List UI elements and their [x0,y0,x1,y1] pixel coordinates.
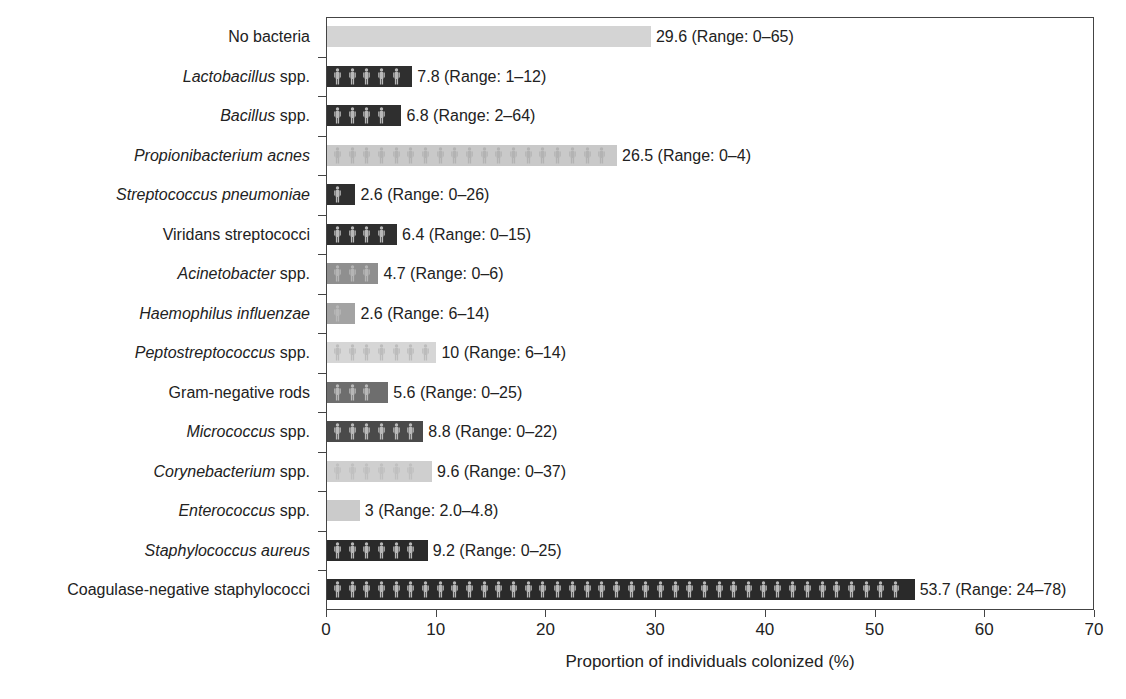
value-label: 6.8 (Range: 2–64) [406,96,535,136]
person-icon [584,147,591,164]
y-tick [318,96,326,97]
person-icon [495,147,502,164]
bar-row: Acinetobacter spp.4.7 (Range: 0–6) [0,254,1126,294]
bar-row: Gram-negative rods5.6 (Range: 0–25) [0,373,1126,413]
person-icon [422,344,429,361]
person-icon [334,542,341,559]
category-label: Micrococcus spp. [0,412,310,452]
value-label: 6.4 (Range: 0–15) [402,215,531,255]
bar-row: Streptococcus pneumoniae2.6 (Range: 0–26… [0,175,1126,215]
person-icon [892,581,899,598]
category-label: Lactobacillus spp. [0,57,310,97]
y-tick [318,570,326,571]
x-tick-label: 50 [855,620,895,640]
y-tick [318,175,326,176]
person-icon [378,226,385,243]
x-tick [984,610,985,617]
person-icon [863,581,870,598]
value-label: 10 (Range: 6–14) [441,333,566,373]
bar-row: Propionibacterium acnes26.5 (Range: 0–4) [0,136,1126,176]
bar [327,184,355,205]
y-tick [318,373,326,374]
bar [327,303,355,324]
person-icon [378,68,385,85]
value-label: 26.5 (Range: 0–4) [622,136,751,176]
person-icon [393,423,400,440]
person-icon [334,186,341,203]
person-icon [628,581,635,598]
value-label: 7.8 (Range: 1–12) [417,57,546,97]
person-icon [525,581,532,598]
person-icon [349,107,356,124]
y-tick [318,491,326,492]
person-icon [334,384,341,401]
person-icon [774,581,781,598]
person-icon [393,68,400,85]
bar [327,342,436,363]
person-icon [642,581,649,598]
person-icon [363,265,370,282]
person-icon [584,581,591,598]
y-tick [318,57,326,58]
person-icon [760,581,767,598]
category-label: Enterococcus spp. [0,491,310,531]
person-icon [393,344,400,361]
bar [327,500,360,521]
x-tick-label: 60 [964,620,1004,640]
x-tick [655,610,656,617]
person-icon [569,581,576,598]
person-icon [378,542,385,559]
person-icon [349,265,356,282]
bar-row: Staphylococcus aureus9.2 (Range: 0–25) [0,531,1126,571]
value-label: 5.6 (Range: 0–25) [393,373,522,413]
person-icon [510,581,517,598]
bar [327,66,412,87]
person-icon [819,581,826,598]
person-icon [422,581,429,598]
bar [327,540,428,561]
person-icon [451,581,458,598]
person-icon [554,581,561,598]
category-label: Propionibacterium acnes [0,136,310,176]
person-icon [848,581,855,598]
person-icon [378,147,385,164]
person-icon [539,581,546,598]
person-icon [378,107,385,124]
person-icon [334,344,341,361]
x-tick [326,610,327,617]
person-icon [598,147,605,164]
person-icon [407,147,414,164]
person-icon [716,581,723,598]
person-icon [437,581,444,598]
person-icon [393,147,400,164]
person-icon [745,581,752,598]
bar-row: No bacteria29.6 (Range: 0–65) [0,17,1126,57]
person-icon [481,147,488,164]
value-label: 9.2 (Range: 0–25) [433,531,562,571]
person-icon [686,581,693,598]
person-icon [378,581,385,598]
person-icon [407,581,414,598]
x-tick [765,610,766,617]
person-icon [334,581,341,598]
person-icon [334,68,341,85]
person-icon [701,581,708,598]
person-icon [466,581,473,598]
bar [327,26,651,47]
value-label: 29.6 (Range: 0–65) [656,17,794,57]
person-icon [393,463,400,480]
person-icon [334,423,341,440]
person-icon [569,147,576,164]
y-tick [318,452,326,453]
person-icon [363,344,370,361]
person-icon [349,344,356,361]
person-icon [363,107,370,124]
category-label: Coagulase-negative staphylococci [0,570,310,610]
bar-row: Micrococcus spp.8.8 (Range: 0–22) [0,412,1126,452]
category-label: Streptococcus pneumoniae [0,175,310,215]
person-icon [363,581,370,598]
y-tick [318,412,326,413]
person-icon [393,581,400,598]
x-axis-label: Proportion of individuals colonized (%) [326,652,1094,672]
bar-row: Bacillus spp.6.8 (Range: 2–64) [0,96,1126,136]
